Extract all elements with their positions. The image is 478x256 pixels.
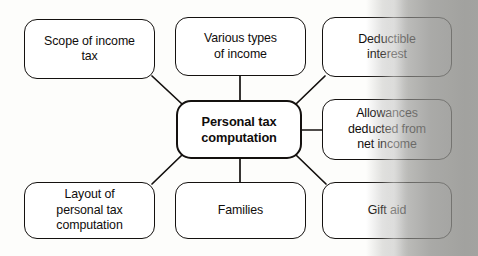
link-deductible-to-central (296, 76, 325, 104)
node-families-label: Families (213, 203, 268, 219)
link-giftaid-to-central (296, 155, 326, 184)
node-gift-aid-label: Gift aid (363, 203, 411, 219)
node-scope-of-income-tax-label: Scope of income tax (39, 34, 140, 65)
node-families[interactable]: Families (175, 182, 306, 239)
node-layout-of-personal-tax[interactable]: Layout of personal tax computation (24, 182, 155, 239)
node-deductible-interest-label: Deductible interest (353, 32, 421, 63)
diagram-canvas: Personal tax computationScope of income … (0, 0, 478, 256)
node-allowances-deducted[interactable]: Allowances deducted from net income (322, 99, 452, 160)
link-layout-to-central (152, 155, 182, 184)
node-various-types-of-income-label: Various types of income (199, 31, 282, 62)
node-layout-of-personal-tax-label: Layout of personal tax computation (51, 187, 127, 234)
node-deductible-interest[interactable]: Deductible interest (322, 17, 452, 77)
link-scope-to-central (152, 76, 182, 104)
central-node-personal-tax-computation[interactable]: Personal tax computation (176, 100, 302, 159)
node-allowances-deducted-label: Allowances deducted from net income (343, 106, 431, 153)
node-gift-aid[interactable]: Gift aid (322, 182, 452, 239)
node-various-types-of-income[interactable]: Various types of income (175, 17, 306, 76)
central-node-personal-tax-computation-label: Personal tax computation (196, 114, 282, 146)
node-scope-of-income-tax[interactable]: Scope of income tax (24, 19, 155, 79)
